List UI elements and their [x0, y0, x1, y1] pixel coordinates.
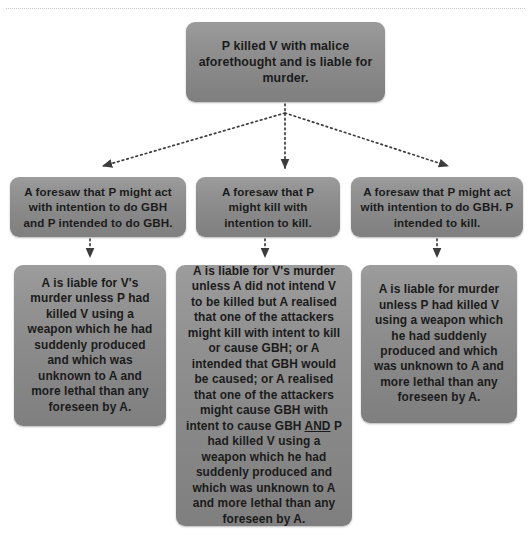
node-outcome-2-text: A is liable for V's murder unless A did …: [185, 264, 343, 527]
node-outcome-2-text-before: A is liable for V's murder unless A did …: [186, 264, 340, 433]
node-root-premise: P killed V with malice aforethought and …: [186, 22, 385, 102]
diagram-canvas: P killed V with malice aforethought and …: [0, 0, 531, 539]
node-branch-gbh-and-gbh: A foresaw that P might act with intentio…: [10, 177, 186, 237]
node-outcome-2-text-after: P had killed V using a weapon which he h…: [192, 419, 342, 526]
node-root-text: P killed V with malice aforethought and …: [195, 38, 376, 86]
node-outcome-2-emphasis: AND: [305, 419, 331, 433]
node-outcome-3-text: A is liable for murder unless P had kill…: [370, 282, 508, 406]
node-outcome-kill-and-kill: A is liable for V's murder unless A did …: [176, 265, 352, 526]
node-branch-2-text: A foresaw that P might kill with intenti…: [205, 184, 331, 229]
node-branch-1-text: A foresaw that P might act with intentio…: [19, 184, 177, 229]
node-outcome-1-text: A is liable for V's murder unless P had …: [23, 276, 157, 415]
node-branch-kill-and-kill: A foresaw that P might kill with intenti…: [196, 177, 340, 237]
connector-root-to-branch-1: [103, 113, 285, 166]
top-dotted-rule: [6, 8, 525, 9]
node-branch-3-text: A foresaw that P might act with intentio…: [360, 184, 514, 229]
connector-root-to-branch-3: [285, 113, 448, 166]
node-outcome-gbh-and-gbh: A is liable for V's murder unless P had …: [14, 265, 166, 426]
node-branch-gbh-and-kill: A foresaw that P might act with intentio…: [351, 177, 523, 237]
node-outcome-gbh-and-kill: A is liable for murder unless P had kill…: [361, 265, 517, 423]
